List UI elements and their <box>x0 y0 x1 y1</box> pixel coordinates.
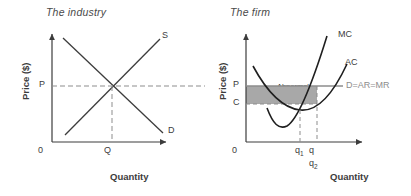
panel-industry: The industry Price ($) Quantity 0 P Q S … <box>0 0 205 196</box>
panel-industry-plot <box>0 0 205 196</box>
panel-firm-plot <box>205 0 411 196</box>
economics-diagram: The industry Price ($) Quantity 0 P Q S … <box>0 0 411 196</box>
marginal-cost-curve <box>267 36 327 127</box>
panel-firm: The firm Price ($) Quantity 0 P C q1 q q… <box>205 0 411 196</box>
